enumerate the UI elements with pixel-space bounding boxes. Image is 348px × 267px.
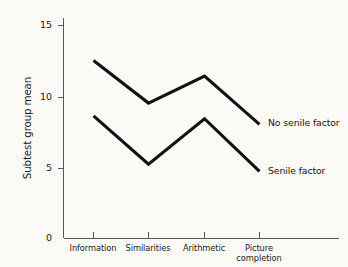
- chart-plot-area: [0, 0, 348, 267]
- series-label-senile-factor: Senile factor: [268, 166, 325, 176]
- y-tick-label-10: 10: [26, 92, 52, 102]
- series-line-senile-factor: [94, 116, 260, 171]
- x-tick-label-picture-completion-line2: completion: [236, 253, 281, 263]
- y-tick-label-0: 0: [26, 233, 52, 243]
- series-line-no-senile-factor: [94, 61, 260, 125]
- series-label-no-senile-factor: No senile factor: [268, 118, 340, 128]
- y-tick-label-15: 15: [26, 20, 52, 30]
- x-tick-label-picture-completion: Picture completion: [219, 244, 299, 263]
- y-axis-title: Subtest group mean: [21, 53, 33, 203]
- y-tick-label-5: 5: [26, 163, 52, 173]
- x-tick-label-picture-completion-line1: Picture: [245, 243, 273, 253]
- chart-figure: Subtest group mean 15 10 5 0 Information…: [0, 0, 348, 267]
